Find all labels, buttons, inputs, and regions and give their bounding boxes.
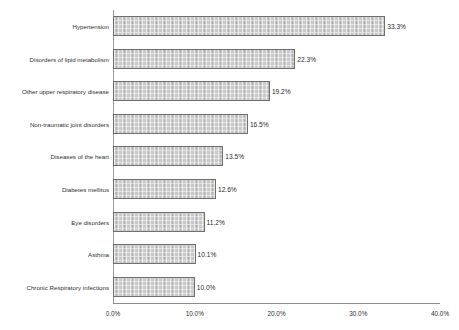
x-axis-line bbox=[113, 303, 440, 304]
x-tick-label: 10.0% bbox=[186, 310, 204, 317]
bar-row: Non-traumatic joint disorders16.5% bbox=[113, 108, 440, 141]
chart-title bbox=[0, 0, 459, 1]
category-label: Hypertension bbox=[73, 22, 109, 31]
category-label: Diseases of the heart bbox=[51, 152, 109, 161]
bar[interactable]: 12.6% bbox=[113, 179, 216, 199]
bar[interactable]: 33.3% bbox=[113, 16, 385, 36]
bar-chart: Hypertension33.3%Disorders of lipid meta… bbox=[0, 0, 459, 330]
bar-value-label: 19.2% bbox=[272, 88, 291, 95]
bar-row: Diseases of the heart13.5% bbox=[113, 140, 440, 173]
plot-area: Hypertension33.3%Disorders of lipid meta… bbox=[113, 10, 440, 303]
bar[interactable]: 19.2% bbox=[113, 81, 270, 101]
x-tick-label: 40.0% bbox=[431, 310, 449, 317]
category-label: Chronic Respiratory infections bbox=[26, 282, 109, 291]
bar[interactable]: 13.5% bbox=[113, 146, 223, 166]
bar-row: Asthma10.1% bbox=[113, 238, 440, 271]
bar-value-label: 11.2% bbox=[207, 218, 225, 225]
bar-row: Other upper respiratory disease19.2% bbox=[113, 75, 440, 108]
bar-value-label: 16.5% bbox=[250, 120, 269, 127]
bar-row: Diabetes mellitus12.6% bbox=[113, 173, 440, 206]
bar[interactable]: 11.2% bbox=[113, 212, 205, 232]
bar-value-label: 33.3% bbox=[387, 23, 406, 30]
bar-row: Hypertension33.3% bbox=[113, 10, 440, 43]
x-tick-label: 20.0% bbox=[267, 310, 285, 317]
category-label: Other upper respiratory disease bbox=[22, 87, 109, 96]
bar-row: Disorders of lipid metabolism22.3% bbox=[113, 43, 440, 76]
category-label: Disorders of lipid metabolism bbox=[30, 54, 109, 63]
bar-value-label: 10.1% bbox=[198, 251, 217, 258]
bar-value-label: 12.6% bbox=[218, 186, 237, 193]
category-label: Eye disorders bbox=[71, 217, 109, 226]
bar[interactable]: 22.3% bbox=[113, 49, 295, 69]
bar-row: Chronic Respiratory infections10.0% bbox=[113, 270, 440, 303]
category-label: Diabetes mellitus bbox=[62, 185, 109, 194]
bar[interactable]: 10.0% bbox=[113, 277, 195, 297]
category-label: Non-traumatic joint disorders bbox=[30, 119, 109, 128]
bar-value-label: 22.3% bbox=[297, 55, 316, 62]
bar-row: Eye disorders11.2% bbox=[113, 205, 440, 238]
x-tick-label: 0.0% bbox=[106, 310, 121, 317]
category-label: Asthma bbox=[88, 250, 109, 259]
bar[interactable]: 16.5% bbox=[113, 114, 248, 134]
bar-value-label: 10.0% bbox=[197, 283, 216, 290]
x-tick-label: 30.0% bbox=[349, 310, 367, 317]
bar[interactable]: 10.1% bbox=[113, 244, 196, 264]
bar-value-label: 13.5% bbox=[225, 153, 244, 160]
